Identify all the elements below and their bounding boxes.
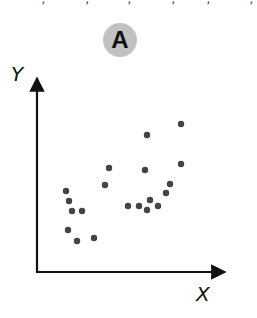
data-point	[142, 167, 148, 173]
y-axis-label: Y	[11, 62, 23, 86]
data-point	[102, 182, 108, 188]
data-point	[106, 165, 112, 171]
scatter-plot	[0, 0, 257, 318]
data-point	[125, 203, 131, 209]
data-point	[69, 208, 75, 214]
data-point	[66, 198, 72, 204]
data-point	[79, 208, 85, 214]
data-point	[178, 161, 184, 167]
data-point	[74, 238, 80, 244]
data-point	[63, 188, 69, 194]
data-point	[136, 203, 142, 209]
data-point	[167, 181, 173, 187]
data-point	[144, 132, 150, 138]
data-point	[65, 227, 71, 233]
data-point	[155, 203, 161, 209]
data-point	[91, 235, 97, 241]
data-point	[144, 207, 150, 213]
data-point	[163, 190, 169, 196]
data-points	[63, 121, 184, 244]
data-point	[178, 121, 184, 127]
x-axis-label: X	[196, 282, 210, 306]
data-point	[147, 197, 153, 203]
